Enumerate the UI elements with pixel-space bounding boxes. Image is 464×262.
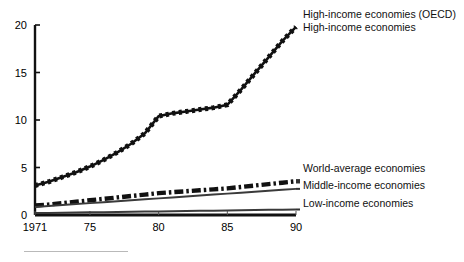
y-axis-tick: 15 [15,67,27,79]
x-axis-tick: 90 [290,221,302,233]
footer-rule [24,251,128,252]
chart-container: 05101520 197175808590 High-income econom… [0,0,464,262]
x-axis-tick: 75 [84,221,96,233]
x-axis-tick: 80 [153,221,165,233]
y-axis-tick-labels: 05101520 [15,19,27,221]
line-chart: 05101520 197175808590 [0,0,464,262]
series-3 [35,209,296,213]
legend-label-middle-income: Middle-income economies [303,179,425,191]
y-axis-tick: 0 [21,209,27,221]
series-0 [35,27,296,186]
legend-label-high-income-oecd: High-income economies (OECD) [303,8,456,20]
series-1 [35,181,296,205]
legend-label-world-average: World-average economies [303,162,425,174]
x-axis-tick: 85 [221,221,233,233]
legend-label-high-income: High-income economies [303,21,416,33]
y-axis-tick: 10 [15,114,27,126]
y-axis-tick: 20 [15,19,27,31]
x-axis-tick-labels: 197175808590 [23,221,302,233]
legend-label-low-income: Low-income economies [303,197,413,209]
chart-series-layer [35,27,300,213]
x-axis-tick: 1971 [23,221,47,233]
y-axis-tick: 5 [21,162,27,174]
